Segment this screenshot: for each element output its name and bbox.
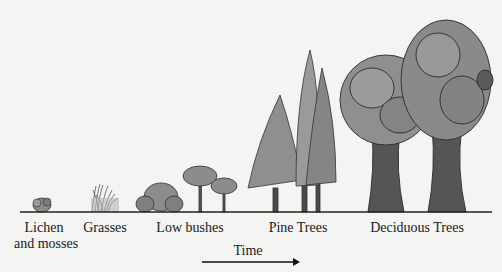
stage-label-lichen: Lichen and mosses	[14, 220, 74, 252]
stage-label-low-bushes: Low bushes	[150, 220, 230, 236]
lichen-label: Lichen	[14, 220, 74, 236]
lichen-icon	[33, 198, 51, 212]
deciduous-trees-icon	[340, 20, 493, 212]
mosses-label: and mosses	[14, 236, 74, 252]
small-trees-icon	[183, 166, 237, 212]
stage-label-deciduous-trees: Deciduous Trees	[362, 220, 472, 236]
stage-label-pine-trees: Pine Trees	[262, 220, 334, 236]
low-bushes-icon	[136, 183, 183, 212]
stage-label-grasses: Grasses	[80, 220, 130, 236]
grasses-icon	[91, 184, 119, 212]
time-arrow-icon	[202, 258, 300, 266]
time-axis-label: Time	[228, 243, 268, 259]
pine-trees-icon	[248, 50, 336, 212]
